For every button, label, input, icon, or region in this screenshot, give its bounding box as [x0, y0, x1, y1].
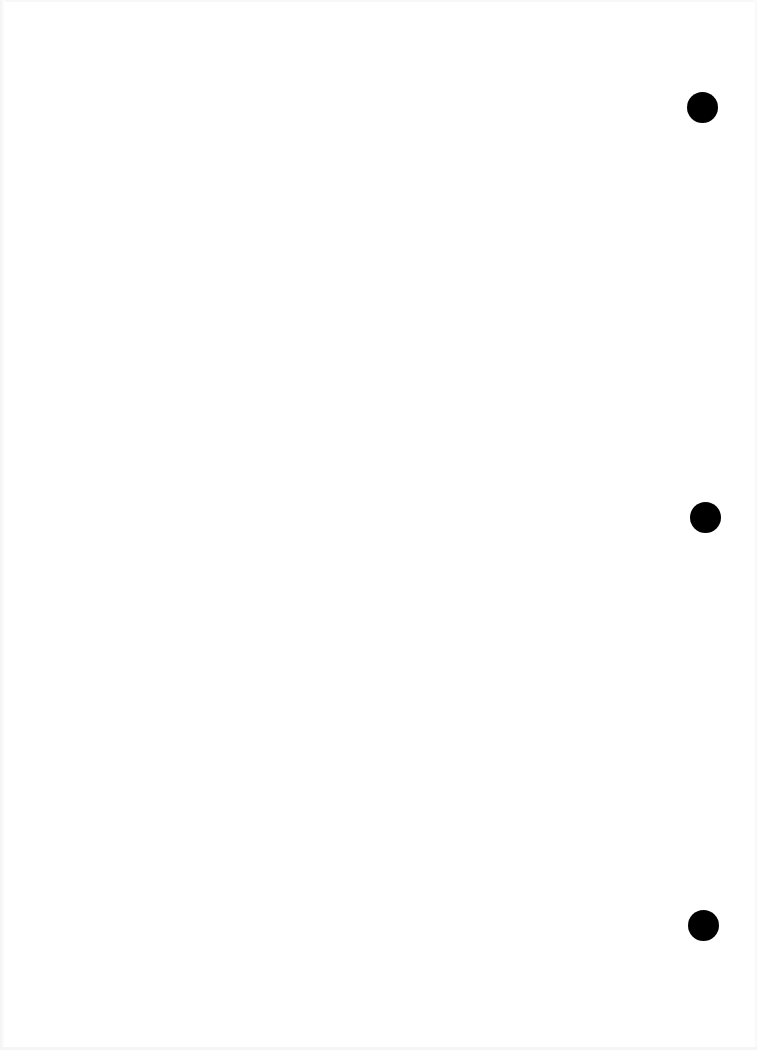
punch-hole-icon [687, 92, 718, 123]
blank-document-page [0, 0, 757, 1050]
punch-hole-icon [690, 502, 721, 533]
page-edge-top [0, 0, 757, 2]
punch-hole-icon [688, 910, 719, 941]
page-edge-left [0, 0, 5, 1050]
